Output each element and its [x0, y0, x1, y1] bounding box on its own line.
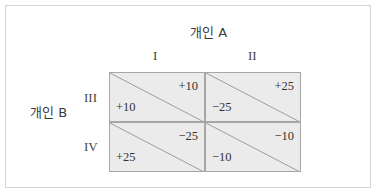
strategy-iv-header: IV [84, 139, 98, 155]
payoff-a: −10 [274, 129, 294, 144]
payoff-b: −25 [212, 100, 232, 115]
player-b-label: 개인 B [30, 102, 67, 121]
strategy-ii-header: II [248, 48, 257, 64]
cell-ii-iii: +25 −25 [205, 72, 301, 122]
cell-i-iv: −25 +25 [109, 122, 205, 172]
cell-ii-iv: −10 −10 [205, 122, 301, 172]
payoff-b: +10 [116, 100, 136, 115]
payoff-matrix: +10 +10 +25 −25 −25 +25 −10 −10 [109, 72, 301, 173]
payoff-b: +25 [116, 150, 136, 165]
payoff-a: +10 [178, 79, 198, 94]
payoff-a: −25 [178, 129, 198, 144]
strategy-i-header: I [153, 48, 157, 64]
player-a-label: 개인 A [190, 22, 227, 41]
cell-i-iii: +10 +10 [109, 72, 205, 122]
payoff-b: −10 [212, 150, 232, 165]
strategy-iii-header: III [84, 90, 97, 106]
payoff-a: +25 [274, 79, 294, 94]
